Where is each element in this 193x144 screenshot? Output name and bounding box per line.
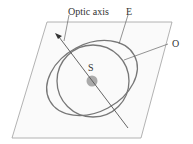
birefringence-diagram: Optic axis E O S [0, 0, 193, 144]
o-label: O [172, 38, 179, 49]
optic-axis-label: Optic axis [68, 6, 109, 17]
s-label: S [88, 62, 94, 73]
e-label: E [126, 6, 132, 17]
diagram-canvas: Optic axis E O S [0, 0, 193, 144]
